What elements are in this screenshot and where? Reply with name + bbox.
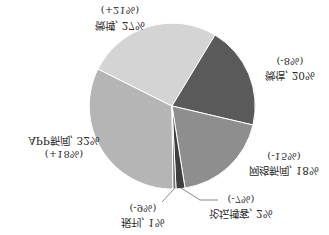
label-wechat-change: (-8%) [276, 56, 303, 67]
pie-slices [89, 23, 255, 189]
label-app-news-main: APP新闻, 32% [27, 135, 100, 147]
label-web-news-main: 网络新闻, 18% [249, 165, 319, 177]
leader-forum-blog [181, 188, 218, 200]
label-app-news: APP新闻, 32% (+18%) [27, 135, 100, 160]
label-newspaper: 报刊, 1% (-9%) [121, 203, 164, 229]
label-newspaper-main: 报刊, 1% [121, 217, 164, 229]
label-forum-blog-main: 论坛博客, 2% [209, 208, 272, 220]
label-weibo-change: (+21%) [101, 5, 140, 16]
label-weibo: 微博, 27% (+21%) [95, 5, 145, 32]
label-forum-blog: 论坛博客, 2% (-7%) [209, 194, 272, 220]
leader-lines [162, 188, 218, 202]
label-weibo-main: 微博, 27% [95, 20, 145, 32]
label-wechat-main: 微信, 20% [265, 70, 315, 82]
label-newspaper-change: (-9%) [129, 203, 156, 214]
label-web-news: 网络新闻, 18% (-15%) [249, 151, 319, 177]
label-wechat: 微信, 20% (-8%) [265, 56, 315, 82]
leader-newspaper [162, 189, 174, 202]
pie-chart: APP新闻, 32% (+18%) 微博, 27% (+21%) 微信, 20%… [0, 0, 329, 235]
label-app-news-change: (+18%) [45, 149, 84, 160]
label-web-news-change: (-15%) [267, 151, 301, 162]
label-forum-blog-change: (-7%) [227, 194, 254, 205]
